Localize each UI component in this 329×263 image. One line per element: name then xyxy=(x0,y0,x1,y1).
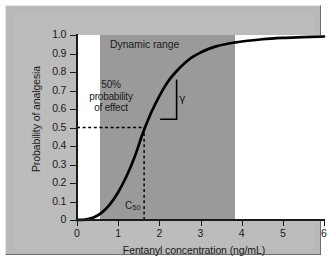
y-tick-0.9 xyxy=(70,54,77,55)
y-tick-0.2 xyxy=(70,183,77,184)
x-tick-label-6: 6 xyxy=(312,227,329,239)
fifty-percent-line-1: 50% xyxy=(80,79,142,91)
y-tick-0.3 xyxy=(70,165,77,166)
fifty-percent-line-2: probability xyxy=(80,91,142,103)
gamma-slope-triangle xyxy=(160,79,176,119)
x-tick-2 xyxy=(159,220,160,226)
sigmoid-curve xyxy=(77,36,324,220)
x-tick-0 xyxy=(77,220,78,226)
y-tick-label-0: 0 xyxy=(26,214,66,224)
y-tick-0.6 xyxy=(70,109,77,110)
c50-label: C50 xyxy=(125,200,141,212)
y-tick-1.0 xyxy=(70,35,77,36)
x-tick-label-2: 2 xyxy=(147,227,171,239)
x-tick-label-4: 4 xyxy=(230,227,254,239)
chart-vector-layer xyxy=(77,35,324,220)
x-tick-5 xyxy=(283,220,284,226)
y-tick-0.8 xyxy=(70,72,77,73)
y-tick-0 xyxy=(70,220,77,221)
y-tick-0.5 xyxy=(70,128,77,129)
figure-panel: 00.10.20.30.40.50.60.70.80.91.0 0123456 … xyxy=(5,5,321,255)
x-tick-1 xyxy=(118,220,119,226)
x-tick-label-0: 0 xyxy=(65,227,89,239)
fifty-percent-line-3: of effect xyxy=(80,102,142,114)
x-tick-6 xyxy=(324,220,325,226)
x-tick-3 xyxy=(201,220,202,226)
x-tick-4 xyxy=(242,220,243,226)
x-tick-label-1: 1 xyxy=(106,227,130,239)
figure-panel-inner: 00.10.20.30.40.50.60.70.80.91.0 0123456 … xyxy=(14,13,314,249)
figure-container: 00.10.20.30.40.50.60.70.80.91.0 0123456 … xyxy=(0,0,329,263)
fifty-percent-probability-label: 50% probability of effect xyxy=(80,79,142,114)
dynamic-range-label: Dynamic range xyxy=(110,38,179,50)
y-tick-0.4 xyxy=(70,146,77,147)
y-axis-title: Probability of analgesia xyxy=(30,34,42,204)
x-tick-label-5: 5 xyxy=(271,227,295,239)
x-tick-label-3: 3 xyxy=(189,227,213,239)
y-tick-0.7 xyxy=(70,91,77,92)
plot-area xyxy=(77,35,324,220)
x-axis-title: Fentanyl concentration (ng/mL) xyxy=(54,244,329,256)
c50-label-subscript: 50 xyxy=(132,203,140,212)
gamma-symbol-label: γ xyxy=(179,92,186,105)
y-tick-0.1 xyxy=(70,202,77,203)
